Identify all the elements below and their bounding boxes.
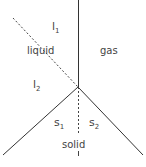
region-label-l1: l1 [52,20,60,35]
region-label-solid: solid [62,139,85,150]
region-label-s1: s1 [54,116,64,131]
solid-gas-boundary [78,87,143,155]
region-label-s2: s2 [89,116,99,131]
phase-diagram: l1 liquid l2 gas s1 s2 solid [0,0,146,167]
region-label-l2: l2 [33,78,41,93]
region-label-gas: gas [100,45,118,56]
region-label-liquid: liquid [27,45,54,56]
